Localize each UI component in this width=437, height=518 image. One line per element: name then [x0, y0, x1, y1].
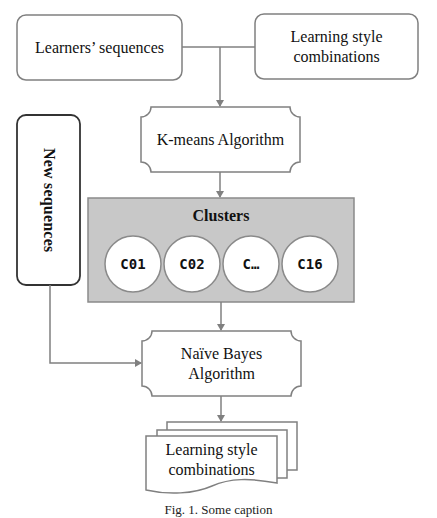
cluster-label-c02: C02 — [164, 236, 220, 292]
learning-style-input-label: Learning style combinations — [255, 14, 418, 79]
cluster-label-c01: C01 — [105, 236, 161, 292]
new-sequences-label-wrap: New sequences — [17, 115, 80, 285]
naive-bayes-line2: Algorithm — [188, 364, 255, 384]
output-line2: combinations — [168, 460, 254, 480]
naive-bayes-line1: Naïve Bayes — [181, 344, 262, 364]
output-label: Learning style combinations — [146, 438, 277, 482]
cluster-label-cdots: C… — [223, 236, 279, 292]
cluster-label-c16: C16 — [282, 236, 338, 292]
naive-bayes-label: Naïve Bayes Algorithm — [142, 331, 301, 396]
figure-caption: Fig. 1. Some caption — [0, 502, 437, 518]
learning-style-input-line1: Learning style — [291, 27, 383, 47]
new-sequences-label: New sequences — [39, 148, 59, 252]
clusters-title: Clusters — [88, 205, 354, 227]
output-line1: Learning style — [166, 440, 258, 460]
learning-style-input-line2: combinations — [293, 47, 379, 67]
kmeans-label: K-means Algorithm — [141, 107, 300, 172]
learners-sequences-label: Learners’ sequences — [17, 15, 182, 80]
